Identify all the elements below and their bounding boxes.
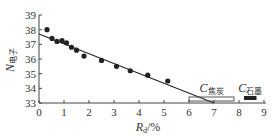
axes xyxy=(39,15,266,103)
data-point xyxy=(54,39,59,44)
x-tick-label: 0 xyxy=(36,106,42,118)
y-tick-label: 36 xyxy=(25,53,37,65)
data-point xyxy=(145,73,150,78)
x-axis-title: Rd/% xyxy=(135,120,161,135)
x-tick-label: 1 xyxy=(61,106,67,118)
data-point xyxy=(81,53,86,58)
y-tick-label: 33 xyxy=(25,97,37,109)
y-tick-label: 37 xyxy=(25,38,37,50)
coke-range-bar xyxy=(189,97,234,101)
data-point xyxy=(59,38,64,43)
x-tick-label: 8 xyxy=(236,106,242,118)
annotation-label: C石墨 xyxy=(238,81,262,96)
x-tick-label: 7 xyxy=(211,106,217,118)
y-tick-label: 38 xyxy=(25,24,37,36)
data-point xyxy=(49,36,54,41)
data-point xyxy=(128,68,133,73)
data-point xyxy=(69,45,74,50)
scatter-chart: 33343536373839 0123456789 C焦炭C石墨 Rd/% N电… xyxy=(0,0,274,138)
data-point xyxy=(165,78,170,83)
data-point xyxy=(64,40,69,45)
y-tick-label: 39 xyxy=(25,9,37,21)
x-tick-label: 5 xyxy=(161,106,167,118)
x-tick-label: 2 xyxy=(86,106,92,118)
x-tick-label: 9 xyxy=(261,106,267,118)
data-points xyxy=(44,27,170,84)
data-point xyxy=(114,64,119,69)
x-tick-label: 3 xyxy=(111,106,117,118)
graphite-range-bar xyxy=(244,96,257,100)
y-tick-label: 34 xyxy=(25,82,37,94)
y-tick-label: 35 xyxy=(25,68,37,80)
x-tick-label: 6 xyxy=(186,106,192,118)
data-point xyxy=(99,58,104,63)
data-point xyxy=(44,27,49,32)
y-axis-title: N电子 xyxy=(3,48,18,73)
x-tick-label: 4 xyxy=(136,106,142,118)
data-point xyxy=(74,48,79,53)
annotation-label: C焦炭 xyxy=(199,81,223,96)
